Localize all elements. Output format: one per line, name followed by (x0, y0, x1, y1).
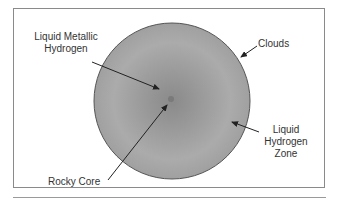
liquid-hydrogen-zone-label: Liquid Hydrogen Zone (262, 124, 310, 160)
label-line: Zone (262, 148, 310, 160)
liquid-metallic-hydrogen-label: Liquid Metallic Hydrogen (28, 31, 104, 55)
rocky-core-dot (168, 96, 174, 102)
label-line: Hydrogen (28, 43, 104, 55)
label-line: Liquid (262, 124, 310, 136)
rocky-core-label: Rocky Core (48, 176, 100, 188)
label-line: Liquid Metallic (28, 31, 104, 43)
clouds-label: Clouds (258, 38, 289, 50)
label-line: Hydrogen (262, 136, 310, 148)
clouds-arrow (241, 46, 257, 57)
